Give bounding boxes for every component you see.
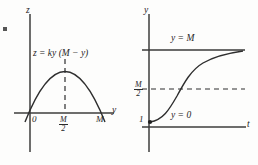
initial-value-tick-label: 1 — [139, 115, 144, 124]
origin-tick-label: 0 — [32, 115, 37, 124]
y-axis-label: y — [112, 106, 116, 116]
y-axis-label: y — [144, 6, 148, 16]
panel-logistic-solution-curve: y t y = M y = 0 M 2 1 — [129, 0, 258, 165]
figure-root: z y z = ky (M − y) 0 M 2 M y — [0, 0, 258, 165]
lower-asymptote-label: y = 0 — [171, 111, 191, 121]
max-m-tick-label: M — [96, 115, 104, 124]
upper-asymptote-label: y = M — [171, 34, 194, 44]
half-m-denominator: 2 — [59, 125, 68, 133]
parabola-equation-label: z = ky (M − y) — [33, 49, 88, 59]
z-axis-label: z — [26, 6, 30, 16]
half-m-tick-label: M 2 — [59, 115, 68, 133]
logistic-curve — [150, 51, 243, 122]
half-m-tick-label: M 2 — [134, 80, 143, 98]
parabola-plot — [0, 0, 129, 165]
half-m-denominator: 2 — [134, 90, 143, 98]
initial-value-dot — [148, 120, 152, 124]
panel-growth-rate-parabola: z y z = ky (M − y) 0 M 2 M — [0, 0, 129, 165]
logistic-plot — [129, 0, 258, 165]
t-axis-label: t — [247, 120, 250, 130]
